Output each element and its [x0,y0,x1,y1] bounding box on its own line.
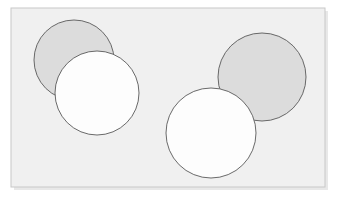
white-circle-left [55,51,139,135]
figure-container [0,0,337,199]
geometric-diagram [0,0,337,199]
white-circle-right [166,88,256,178]
